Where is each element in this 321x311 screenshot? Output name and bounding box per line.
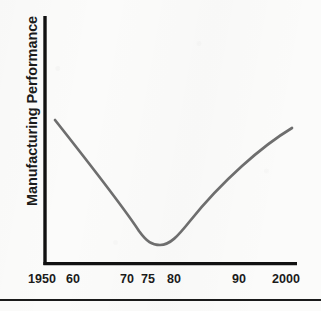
x-tick-label-1950: 1950 <box>28 272 56 286</box>
plot-area <box>0 0 321 311</box>
x-tick-label-75: 75 <box>141 272 155 286</box>
x-tick-label-2000: 2000 <box>272 272 300 286</box>
x-tick-label-70: 70 <box>120 272 134 286</box>
x-tick-label-80: 80 <box>167 272 181 286</box>
chart-figure: Manufacturing Performance 1950 60 70 75 … <box>0 0 321 311</box>
performance-curve <box>55 120 292 245</box>
x-tick-label-90: 90 <box>232 272 246 286</box>
bottom-divider <box>0 299 321 301</box>
x-tick-label-60: 60 <box>66 272 80 286</box>
